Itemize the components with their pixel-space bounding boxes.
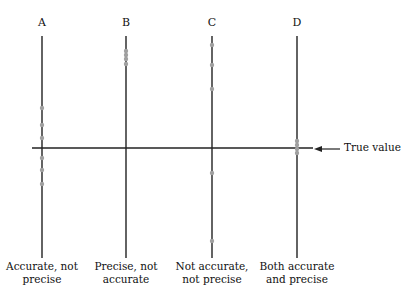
measurement-dot: [210, 63, 214, 67]
caption-line: accurate: [81, 273, 171, 286]
column-d-caption: Both accurate and precise: [252, 260, 342, 286]
caption-line: not precise: [167, 273, 257, 286]
measurement-dot: [124, 49, 128, 53]
column-c-caption: Not accurate, not precise: [167, 260, 257, 286]
measurement-dot: [295, 151, 299, 155]
column-b-caption: Precise, not accurate: [81, 260, 171, 286]
column-d-letter: D: [287, 16, 307, 29]
measurement-dot: [210, 87, 214, 91]
measurement-dot: [295, 147, 299, 151]
column-a-caption: Accurate, not precise: [0, 260, 87, 286]
measurement-dot: [40, 168, 44, 172]
measurement-dot: [124, 53, 128, 57]
measurement-dot: [124, 62, 128, 66]
measurement-dot: [124, 57, 128, 61]
measurement-dot: [40, 123, 44, 127]
column-c-letter: C: [202, 16, 222, 29]
measurement-dot: [40, 182, 44, 186]
caption-line: Both accurate: [252, 260, 342, 273]
measurement-dot: [40, 136, 44, 140]
caption-line: Precise, not: [81, 260, 171, 273]
true-value-label: True value: [344, 141, 401, 153]
measurement-dot: [295, 143, 299, 147]
measurement-dot: [40, 156, 44, 160]
column-b-letter: B: [116, 16, 136, 29]
arrow-icon: [314, 146, 340, 152]
measurement-dot: [295, 139, 299, 143]
measurement-dot: [210, 43, 214, 47]
measurement-dot: [210, 171, 214, 175]
caption-line: and precise: [252, 273, 342, 286]
caption-line: Not accurate,: [167, 260, 257, 273]
measurement-dot: [40, 106, 44, 110]
caption-line: precise: [0, 273, 87, 286]
caption-line: Accurate, not: [0, 260, 87, 273]
measurement-dot: [210, 239, 214, 243]
column-a-letter: A: [32, 16, 52, 29]
